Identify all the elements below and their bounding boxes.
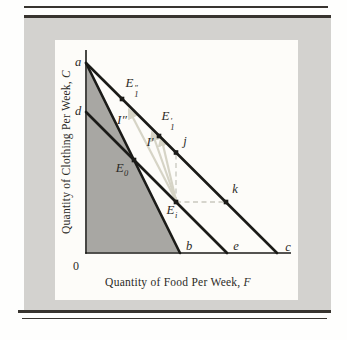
dashed-guide-lines: [176, 155, 224, 203]
y-axis-title: Quantity of Clothing Per Week, C: [60, 70, 72, 234]
point-marker-j: [174, 150, 179, 155]
axis-label-b: b: [186, 240, 192, 253]
axis-label-a: a: [75, 56, 81, 69]
axis-label-c: c: [285, 241, 291, 254]
point-label-k: k: [232, 183, 238, 196]
x-axis-title: Quantity of Food Per Week, F: [105, 276, 251, 288]
figure-page: a d b e c 0 E0 Ei E′1 E″1 j k I″ I′ Quan…: [0, 0, 347, 340]
point-label-e1-doubleprime: E″1: [125, 76, 138, 97]
origin-label: 0: [73, 260, 79, 272]
point-marker-e1-doubleprime: [120, 97, 125, 102]
point-label-e1-prime: E′1: [161, 109, 174, 130]
curve-label-i-prime: I′: [146, 135, 153, 148]
budget-line-diagram: [0, 0, 347, 340]
axis-label-d: d: [75, 105, 81, 118]
point-label-e0: E0: [116, 161, 129, 177]
point-marker-e0: [132, 158, 137, 163]
point-marker-k: [224, 200, 229, 205]
curve-label-i-doubleprime: I″: [117, 113, 127, 126]
point-marker-e1-prime: [157, 134, 162, 139]
point-label-ei: Ei: [167, 203, 178, 219]
point-label-j: j: [183, 135, 186, 148]
axis-label-e: e: [233, 240, 239, 253]
